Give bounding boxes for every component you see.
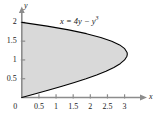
x-tick-label: 1: [54, 103, 58, 111]
curve-equation-label: x = 4y − y3: [60, 17, 99, 26]
shaded-region-group: [22, 22, 128, 97]
equation-base: x = 4y − y: [60, 16, 96, 26]
x-tick-label: 2: [88, 103, 92, 111]
equation-exponent: 3: [96, 15, 99, 21]
x-tick-label: 0.5: [34, 103, 44, 111]
y-axis-label: y: [24, 2, 28, 10]
shaded-region: [22, 22, 128, 97]
x-axis-arrow-icon: [140, 95, 147, 101]
y-tick-label: 2: [0, 18, 17, 26]
x-tick-label: 2.5: [102, 103, 112, 111]
figure-region-bounded-by-curve: x = 4y − y3 x y 00.511.522.53 0.511.52: [0, 0, 156, 120]
x-axis-label: x: [149, 93, 153, 101]
x-tick-label: 3: [123, 103, 127, 111]
y-tick-label: 1.5: [0, 37, 17, 45]
x-tick-label: 1.5: [68, 103, 78, 111]
y-tick-label: 0.5: [0, 75, 17, 83]
y-tick-label: 1: [0, 56, 17, 64]
x-tick-label: 0: [13, 103, 17, 111]
